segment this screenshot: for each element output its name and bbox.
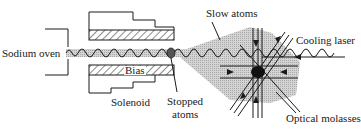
label-stopped-line2: atoms — [172, 108, 198, 120]
label-cooling-laser: Cooling laser — [296, 34, 355, 46]
solenoid-upper — [89, 12, 174, 40]
bias-coil-upper — [89, 30, 174, 40]
label-slow-atoms: Slow atoms — [206, 7, 258, 19]
label-optical-molasses: Optical molasses — [286, 112, 361, 124]
laser-cooling-diagram: Sodium oven Bias Solenoid Stopped atoms … — [0, 0, 361, 129]
molasses-core — [251, 66, 265, 78]
label-stopped-line1: Stopped — [167, 95, 204, 107]
label-solenoid: Solenoid — [111, 96, 151, 108]
label-bias: Bias — [125, 64, 145, 76]
slow-atoms-leader — [212, 22, 220, 40]
stopped-atoms-blob — [167, 48, 175, 58]
diagram-canvas: Sodium oven Bias Solenoid Stopped atoms … — [0, 0, 361, 129]
label-sodium-oven: Sodium oven — [2, 47, 61, 59]
